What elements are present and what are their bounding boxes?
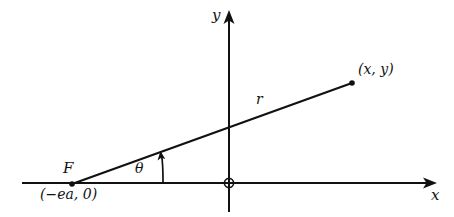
focus-label: F (63, 161, 73, 176)
theta-angle-label: θ (135, 161, 143, 175)
focus-coordinates-label: (−ea, 0) (40, 187, 97, 201)
radius-segment (72, 83, 352, 184)
theta-angle-arc (162, 156, 164, 183)
xy-point-dot (349, 80, 355, 86)
diagram-svg (0, 0, 454, 217)
radius-label: r (256, 92, 263, 106)
figure-canvas: y x r θ F (−ea, 0) (x, y) (0, 0, 454, 217)
xy-point-label: (x, y) (358, 62, 394, 76)
y-axis-label: y (212, 8, 220, 23)
x-axis-label: x (431, 188, 439, 203)
